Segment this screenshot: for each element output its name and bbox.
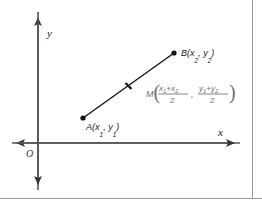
frac-y-sub2: 2 [214, 88, 219, 94]
point-b-label: B(x2, y2) [181, 48, 214, 63]
frac-x-sub2: 2 [174, 88, 179, 94]
point-a-label-mid: , y [103, 122, 113, 132]
point-a-label-end: ) [115, 122, 119, 132]
midpoint-formula-comma: , [191, 89, 194, 99]
y-axis-label: y [46, 27, 52, 39]
origin-label: O [26, 148, 33, 159]
midpoint-diagram-figure: y x O A(x1, y1) B(x2, y2) M ( x1+x2 2 [0, 0, 262, 210]
midpoint-fraction-x-denominator: 2 [170, 96, 175, 105]
point-a-label-main: A(x [85, 122, 100, 132]
point-b-label-mid: , y [198, 48, 208, 58]
x-axis-label: x [217, 126, 223, 138]
point-a-dot [80, 115, 85, 120]
midpoint-fraction-y-numerator: y1+y2 [198, 84, 219, 94]
point-b-dot [171, 50, 176, 55]
midpoint-formula-group: M ( x1+x2 2 , y1+y2 2 ) [146, 81, 236, 105]
point-a-label: A(x1, y1) [85, 122, 119, 137]
midpoint-fraction-x-numerator: x1+x2 [158, 84, 179, 94]
point-b-label-main: B(x [181, 48, 195, 58]
coordinate-plane-svg: y x O A(x1, y1) B(x2, y2) M ( x1+x2 2 [0, 0, 262, 210]
midpoint-formula-close-paren: ) [229, 81, 236, 104]
midpoint-fraction-y-denominator: 2 [210, 96, 215, 105]
point-b-label-end: ) [210, 48, 214, 58]
